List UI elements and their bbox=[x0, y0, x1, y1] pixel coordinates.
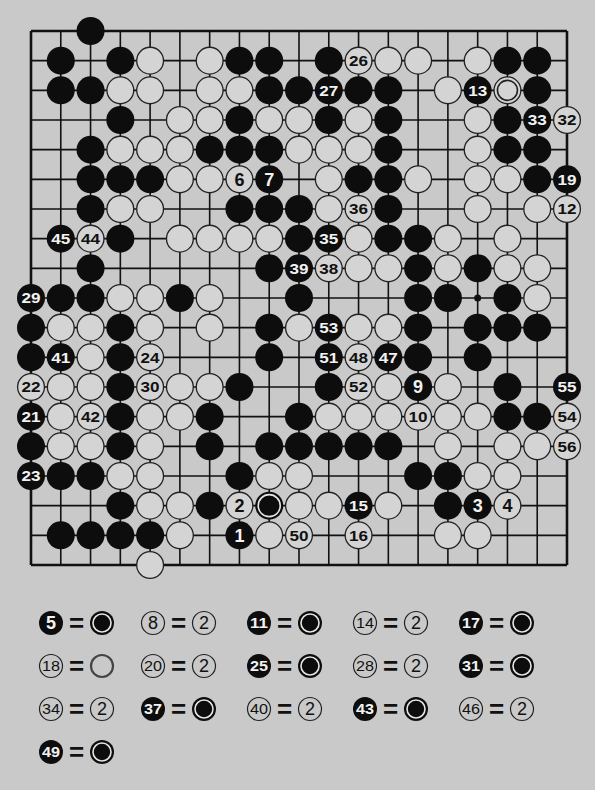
move-number: 42 bbox=[81, 408, 100, 425]
white-stone bbox=[166, 107, 193, 134]
black-stone bbox=[493, 106, 521, 134]
black-stone bbox=[255, 76, 283, 104]
legend-entry: 5= bbox=[38, 610, 115, 636]
move-number: 21 bbox=[22, 408, 41, 425]
black-stone bbox=[47, 284, 75, 312]
go-board: 2627133332671936124544353938295341245148… bbox=[0, 0, 595, 590]
black-stone: 27 bbox=[315, 76, 343, 104]
black-stone bbox=[255, 195, 283, 223]
svg-text:5: 5 bbox=[46, 613, 56, 633]
black-stone bbox=[106, 47, 134, 75]
black-stone bbox=[77, 284, 105, 312]
move-number: 44 bbox=[81, 230, 101, 247]
svg-text:20: 20 bbox=[144, 658, 162, 674]
white-stone bbox=[405, 47, 432, 74]
white-stone: 42 bbox=[77, 403, 104, 430]
white-move-stone-icon: 18 bbox=[38, 653, 64, 679]
black-stone: 23 bbox=[17, 462, 45, 490]
white-stone bbox=[137, 77, 164, 104]
black-stone bbox=[136, 165, 164, 193]
black-stone bbox=[404, 284, 432, 312]
white-stone bbox=[166, 136, 193, 163]
white-stone: 2 bbox=[226, 492, 253, 519]
white-stone bbox=[494, 166, 521, 193]
star-points bbox=[474, 295, 481, 302]
black-stone bbox=[47, 521, 75, 549]
black-stone bbox=[285, 403, 313, 431]
svg-text:18: 18 bbox=[42, 658, 60, 674]
marked-black-stone-icon bbox=[509, 653, 535, 679]
black-stone: 21 bbox=[17, 403, 45, 431]
move-number: 30 bbox=[141, 378, 160, 395]
legend-entry: 34=2 bbox=[38, 696, 115, 722]
white-stone bbox=[256, 225, 283, 252]
move-number: 9 bbox=[413, 377, 423, 397]
white-stone: 56 bbox=[554, 433, 581, 460]
white-stone bbox=[464, 166, 491, 193]
legend-entry: 14=2 bbox=[352, 610, 429, 636]
black-stone: 1 bbox=[225, 521, 253, 549]
white-stone bbox=[524, 196, 551, 223]
move-number: 15 bbox=[349, 497, 368, 514]
move-number: 13 bbox=[468, 82, 487, 99]
white-stone: 36 bbox=[345, 196, 372, 223]
equals-sign: = bbox=[383, 610, 398, 636]
move-number: 47 bbox=[379, 349, 398, 366]
black-stone bbox=[493, 403, 521, 431]
black-stone bbox=[47, 76, 75, 104]
white-stone bbox=[315, 196, 342, 223]
black-stone bbox=[434, 284, 462, 312]
white-stone: 48 bbox=[345, 344, 372, 371]
black-stone bbox=[523, 136, 551, 164]
white-stone bbox=[464, 47, 491, 74]
black-stone bbox=[285, 195, 313, 223]
white-stone bbox=[286, 136, 313, 163]
black-stone: 55 bbox=[553, 373, 581, 401]
black-stone bbox=[404, 254, 432, 282]
equals-sign: = bbox=[277, 610, 292, 636]
black-stone: 3 bbox=[464, 492, 492, 520]
white-stone bbox=[434, 403, 461, 430]
black-stone bbox=[404, 225, 432, 253]
move-number: 7 bbox=[264, 170, 274, 190]
black-stone: 53 bbox=[315, 314, 343, 342]
white-stone bbox=[434, 255, 461, 282]
equals-sign: = bbox=[383, 653, 398, 679]
white-stone-2-icon: 2 bbox=[297, 696, 323, 722]
svg-text:34: 34 bbox=[42, 701, 60, 717]
marked-black-stone-icon bbox=[89, 739, 115, 765]
white-stone bbox=[47, 433, 74, 460]
white-stone: 12 bbox=[554, 196, 581, 223]
black-stone bbox=[315, 47, 343, 75]
white-stone bbox=[464, 522, 491, 549]
move-number: 26 bbox=[349, 52, 368, 69]
svg-text:11: 11 bbox=[250, 615, 268, 631]
move-number: 6 bbox=[234, 170, 244, 190]
white-stone bbox=[166, 225, 193, 252]
black-stone bbox=[196, 432, 224, 460]
legend-entry: 43= bbox=[352, 696, 429, 722]
black-move-stone-icon: 25 bbox=[246, 653, 272, 679]
black-stone bbox=[255, 47, 283, 75]
marked-black-stone-icon bbox=[191, 696, 217, 722]
black-stone: 45 bbox=[47, 225, 75, 253]
white-stone bbox=[77, 314, 104, 341]
black-stone bbox=[374, 432, 402, 460]
white-stone: 16 bbox=[345, 522, 372, 549]
white-stone bbox=[524, 433, 551, 460]
black-stone bbox=[404, 343, 432, 371]
black-stone bbox=[47, 462, 75, 490]
black-stone bbox=[374, 76, 402, 104]
equals-sign: = bbox=[277, 653, 292, 679]
white-stone: 54 bbox=[554, 403, 581, 430]
black-stone bbox=[225, 136, 253, 164]
marked-black-stone-icon bbox=[297, 610, 323, 636]
legend-entry: 46=2 bbox=[458, 696, 535, 722]
black-stone bbox=[196, 492, 224, 520]
white-stone bbox=[494, 255, 521, 282]
white-stone bbox=[345, 225, 372, 252]
white-stone bbox=[345, 136, 372, 163]
move-number: 52 bbox=[349, 378, 368, 395]
equals-sign: = bbox=[277, 696, 292, 722]
white-stone: 44 bbox=[77, 225, 104, 252]
